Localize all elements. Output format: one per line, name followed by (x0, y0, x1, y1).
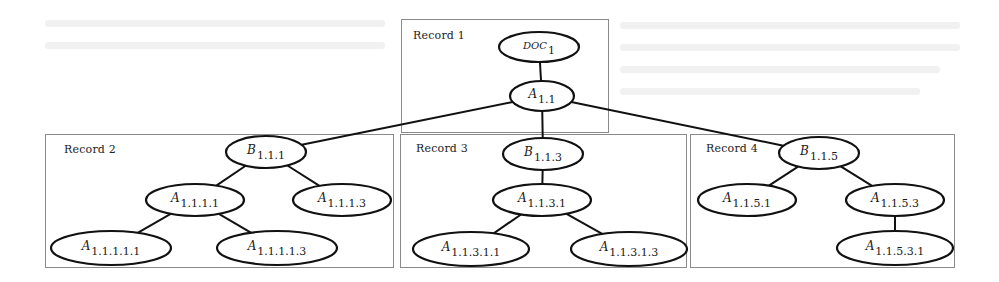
node-b113: B1.1.3 (503, 138, 583, 170)
node-a1111: A1.1.1.1 (146, 184, 244, 216)
node-a11113: A1.1.1.1.3 (217, 231, 337, 265)
edge-b115-a1151 (769, 167, 798, 186)
node-a1113: A1.1.1.3 (293, 184, 391, 216)
edge-b111-a1113 (287, 166, 319, 186)
node-a11311: A1.1.3.1.1 (413, 232, 529, 266)
node-b115: B1.1.5 (779, 137, 859, 169)
node-a11313: A1.1.3.1.3 (571, 232, 687, 266)
node-doc1: DOC1 (499, 32, 579, 62)
node-a11111: A1.1.1.1.1 (51, 231, 171, 265)
node-a1153: A1.1.5.3 (846, 184, 944, 216)
edge-a1131-a11313 (567, 214, 603, 234)
edge-a1111-a11113 (219, 214, 251, 233)
edge-a11-b115 (571, 102, 783, 146)
edge-a1111-a11111 (138, 214, 171, 233)
node-a1131: A1.1.3.1 (493, 184, 591, 216)
node-a11: A1.1 (510, 81, 574, 111)
edge-doc1-a11 (540, 62, 541, 81)
node-a11531: A1.1.5.3.1 (837, 231, 953, 265)
tree-diagram: DOC1A1.1B1.1.1A1.1.1.1A1.1.1.3A1.1.1.1.1… (0, 0, 999, 282)
tree-nodes: DOC1A1.1B1.1.1A1.1.1.1A1.1.1.3A1.1.1.1.1… (51, 32, 953, 266)
node-b111: B1.1.1 (226, 136, 306, 168)
edge-b111-a1111 (216, 166, 245, 186)
edge-a11-b111 (302, 102, 513, 145)
edge-a1131-a11311 (494, 214, 521, 233)
node-a1151: A1.1.5.1 (698, 184, 796, 216)
edge-b115-a1153 (841, 166, 872, 185)
